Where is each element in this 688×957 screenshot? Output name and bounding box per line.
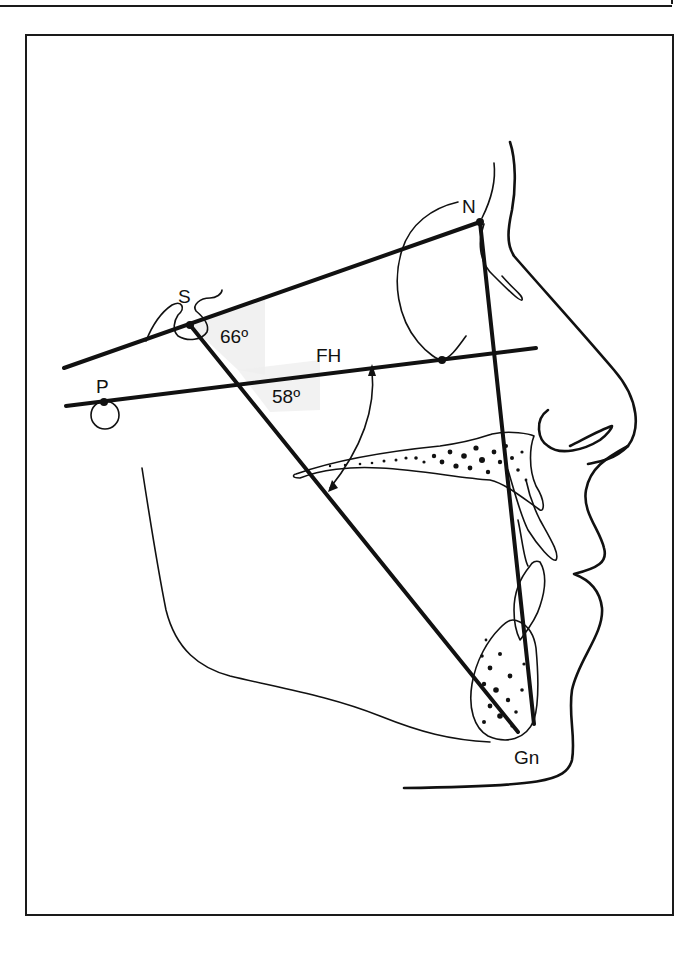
- label-p: P: [96, 376, 109, 397]
- point-s: [186, 321, 194, 329]
- arrowhead-down-icon: [328, 480, 338, 492]
- sn-line: [64, 222, 480, 368]
- mandible-outline: [142, 468, 490, 742]
- point-orbitale: [438, 356, 446, 364]
- label-n: N: [462, 196, 476, 217]
- point-n: [476, 218, 484, 226]
- label-s: S: [178, 286, 191, 307]
- bone-trabeculae: [329, 444, 528, 728]
- angle-arc: [328, 364, 376, 492]
- label-angle-66: 66º: [220, 326, 248, 347]
- label-gn: Gn: [514, 747, 539, 768]
- point-p: [100, 398, 108, 406]
- s-gn-line: [190, 325, 518, 732]
- label-fh: FH: [316, 345, 341, 366]
- label-angle-58: 58º: [272, 386, 300, 407]
- orbit-outline: [397, 202, 466, 360]
- soft-tissue-profile: [404, 142, 636, 788]
- cephalometric-diagram: S N P FH 66º 58º Gn: [0, 0, 688, 957]
